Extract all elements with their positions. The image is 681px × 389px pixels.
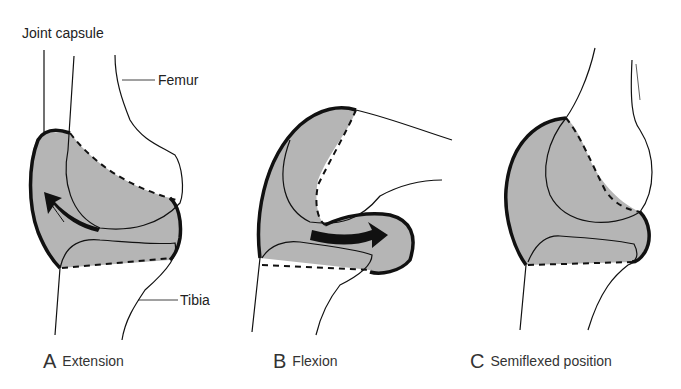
label-tibia: Tibia	[180, 292, 210, 308]
knee-joint-diagram	[0, 0, 681, 389]
caption-panel-c: CSemiflexed position	[470, 350, 612, 373]
panel-caption: Extension	[62, 353, 123, 369]
caption-panel-a: AExtension	[43, 350, 124, 373]
label-joint-capsule: Joint capsule	[22, 25, 104, 41]
panel-b-flexion	[252, 108, 452, 335]
label-femur: Femur	[158, 72, 198, 88]
panel-letter: C	[470, 350, 484, 372]
artist-signature	[636, 64, 640, 100]
panel-letter: B	[273, 350, 286, 372]
panel-caption: Semiflexed position	[490, 353, 611, 369]
panel-c-semiflexed	[506, 48, 652, 330]
panel-caption: Flexion	[292, 353, 337, 369]
caption-panel-b: BFlexion	[273, 350, 337, 373]
panel-letter: A	[43, 350, 56, 372]
panel-a-extension	[30, 50, 183, 340]
